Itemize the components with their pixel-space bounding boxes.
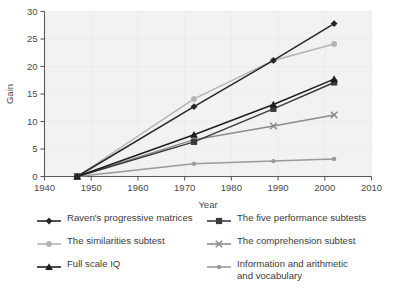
chart-legend: Raven's progressive matrices The similar… [0,212,394,301]
x-tick-label: 1960 [127,182,148,193]
x-tick-label: 1990 [268,182,289,193]
legend-item-ravens-progressive-matrices[interactable]: Raven's progressive matrices [36,212,206,225]
legend-marker-square-icon [206,213,232,225]
legend-item-label: The five performance subtests [237,212,366,224]
y-tick-label: 20 [27,61,38,72]
legend-marker-diamond-icon [36,213,62,225]
legend-item-label: Raven's progressive matrices [67,212,193,224]
legend-item-full-scale-iq[interactable]: Full scale IQ [36,258,206,271]
x-tick-label: 1980 [221,182,242,193]
x-tick-label: 1940 [34,182,55,193]
legend-column-left: Raven's progressive matrices The similar… [36,212,206,281]
legend-item-label: Full scale IQ [67,258,120,270]
y-tick-label: 30 [27,6,38,17]
y-tick-label: 0 [32,171,37,182]
y-axis-title: Gain [4,84,15,104]
legend-marker-x-icon [206,236,232,248]
legend-item-information-and-arithmetic-and-vocabulary[interactable]: Information and arithmetic and vocabular… [206,258,394,281]
legend-marker-triangle-icon [36,259,62,271]
legend-item-the-similarities-subtest[interactable]: The similarities subtest [36,235,206,248]
legend-item-label: Information and arithmetic and vocabular… [237,258,348,281]
y-tick-label: 10 [27,116,38,127]
x-tick-label: 1950 [81,182,102,193]
legend-item-the-comprehension-subtest[interactable]: The comprehension subtest [206,235,394,248]
y-tick-label: 15 [27,88,38,99]
legend-item-label: The similarities subtest [67,235,165,247]
x-axis-title: Year [198,199,217,210]
legend-marker-circle-icon [36,236,62,248]
legend-column-right: The five performance subtests The compre… [206,212,394,291]
chart-figure: 0510152025301940195019601970198019902000… [0,0,394,301]
legend-marker-small-circle-icon [206,259,232,271]
legend-item-the-five-performance-subtests[interactable]: The five performance subtests [206,212,394,225]
x-tick-label: 2000 [314,182,335,193]
legend-item-label: The comprehension subtest [237,235,355,247]
x-tick-label: 1970 [174,182,195,193]
y-tick-label: 5 [32,143,37,154]
x-tick-label: 2010 [361,182,382,193]
y-tick-label: 25 [27,33,38,44]
